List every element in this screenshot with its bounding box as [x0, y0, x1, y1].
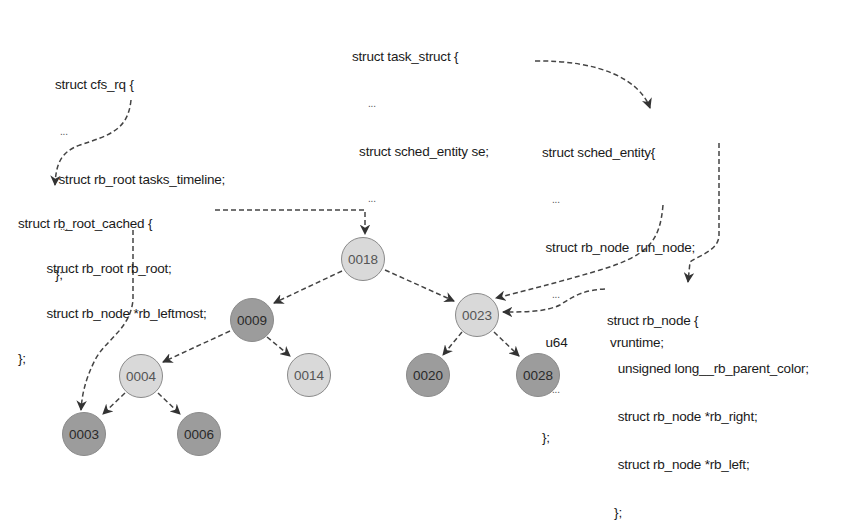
tree-node-0003: 0003 [62, 412, 106, 456]
code-line: struct rb_node *rb_right; [607, 409, 809, 425]
arrow-se [535, 61, 650, 108]
struct-rb-root-cached: struct rb_root_cached { struct rb_root r… [18, 186, 207, 381]
tree-node-0004: 0004 [119, 354, 163, 398]
edge-0009-0014 [267, 337, 290, 356]
tree-node-0020: 0020 [406, 353, 450, 397]
tree-node-0009: 0009 [230, 298, 274, 342]
node-label: 0018 [348, 252, 378, 267]
node-label: 0009 [237, 313, 267, 328]
code-line: struct sched_entity{ [542, 144, 695, 161]
edge-0018-0009 [274, 271, 342, 303]
edge-0018-0023 [385, 270, 454, 301]
tree-node-0018: 0018 [341, 237, 385, 281]
struct-task-struct: struct task_struct { ... struct sched_en… [352, 14, 489, 272]
edge-0004-0006 [158, 393, 180, 414]
code-line: struct task_struct { [352, 48, 489, 65]
tree-node-0006: 0006 [177, 412, 221, 456]
arrow-rb-root [215, 210, 365, 234]
tree-node-0028: 0028 [516, 353, 560, 397]
code-line: struct rb_node { [607, 313, 809, 329]
node-label: 0004 [126, 369, 156, 384]
struct-rb-node: struct rb_node { unsigned long__rb_paren… [607, 281, 809, 524]
node-label: 0006 [184, 427, 214, 442]
code-line: struct sched_entity se; [352, 143, 489, 160]
edge-0023-0020 [443, 332, 462, 355]
tree-node-0023: 0023 [455, 293, 499, 337]
code-ellipsis: ... [352, 194, 489, 204]
code-line: }; [607, 505, 809, 521]
code-line: struct rb_root rb_root; [18, 261, 207, 276]
edge-0023-0028 [494, 332, 519, 356]
code-line: }; [18, 351, 207, 366]
node-label: 0014 [294, 368, 324, 383]
code-line: struct rb_node *rb_leftmost; [18, 306, 207, 321]
tree-node-0014: 0014 [287, 353, 331, 397]
edge-0004-0003 [103, 393, 125, 414]
code-line: struct cfs_rq { [55, 76, 225, 93]
code-ellipsis: ... [352, 99, 489, 109]
code-ellipsis: ... [542, 195, 695, 205]
node-label: 0023 [462, 308, 492, 323]
node-label: 0028 [523, 368, 553, 383]
code-ellipsis: ... [55, 127, 225, 137]
code-line: struct rb_root_cached { [18, 216, 207, 231]
node-label: 0020 [413, 368, 443, 383]
node-label: 0003 [69, 427, 99, 442]
code-line: struct rb_node run_node; [542, 239, 695, 256]
code-line: unsigned long__rb_parent_color; [607, 361, 809, 377]
code-line: struct rb_node *rb_left; [607, 457, 809, 473]
